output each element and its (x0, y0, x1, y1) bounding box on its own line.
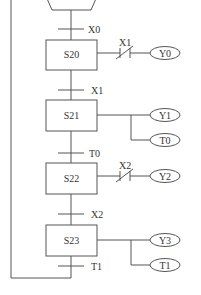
step-s21: S21 Y1 T0 (46, 100, 180, 147)
coil-label: Y0 (159, 48, 171, 59)
step-label: S22 (64, 173, 80, 184)
transition-t1: T1 (58, 261, 102, 272)
coil-label: Y2 (159, 171, 171, 182)
coil-label: Y1 (159, 110, 171, 121)
contact-label: X1 (119, 37, 131, 48)
step-label: S20 (64, 49, 80, 60)
step-s20: S20 X1 Y0 (46, 37, 180, 70)
transition-label: T0 (89, 148, 100, 159)
initial-step-hexagon (45, 0, 98, 10)
sfc-diagram: X0 X1 T0 X2 T1 S20 X1 Y0 S21 Y1 T0 (0, 0, 201, 295)
coil-label: Y3 (159, 235, 171, 246)
transition-x0: X0 (58, 24, 100, 35)
contact-label: X2 (119, 160, 131, 171)
transition-t0: T0 (58, 148, 100, 159)
transition-label: T1 (91, 261, 102, 272)
step-label: S21 (64, 110, 80, 121)
transition-label: X0 (88, 24, 100, 35)
transition-x1: X1 (58, 85, 103, 96)
timer-label: T1 (159, 260, 170, 271)
step-s22: S22 X2 Y2 (46, 160, 180, 194)
transition-label: X1 (91, 85, 103, 96)
timer-label: T0 (159, 135, 170, 146)
step-s23: S23 Y3 T1 (46, 225, 180, 272)
transition-label: X2 (91, 209, 103, 220)
step-label: S23 (64, 235, 80, 246)
transition-x2: X2 (58, 209, 103, 220)
